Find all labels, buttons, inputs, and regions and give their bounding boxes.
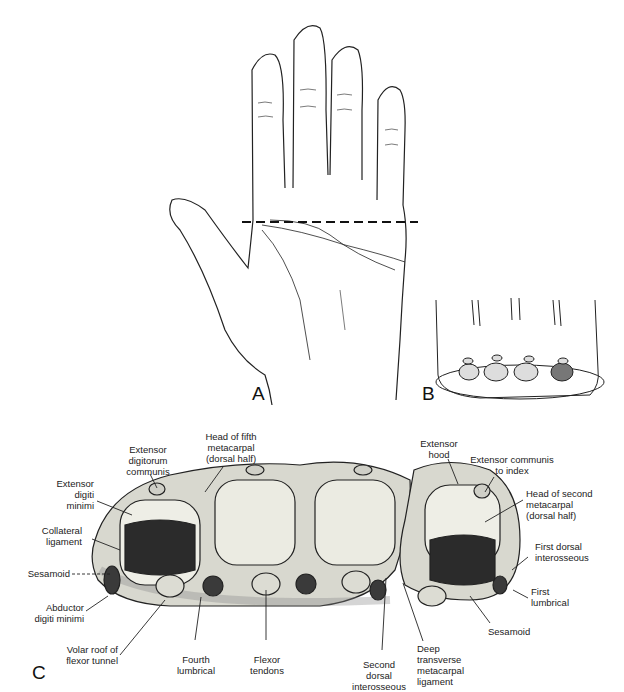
- label-extensor-digitorum-communis: Extensor digitorum communis: [118, 444, 178, 477]
- label-first-lumbrical: First lumbrical: [531, 586, 591, 608]
- label-sesamoid-radial: Sesamoid: [488, 626, 548, 637]
- label-extensor-hood: Extensor hood: [414, 438, 464, 460]
- panel-a-hand-drawing: [170, 26, 406, 405]
- panel-label-a: A: [252, 383, 265, 405]
- panel-label-c: C: [32, 662, 46, 684]
- label-collateral-ligament: Collateral ligament: [18, 525, 82, 547]
- label-head-second-metacarpal: Head of second metacarpal (dorsal half): [526, 488, 618, 521]
- label-abductor-digiti-minimi: Abductor digiti minimi: [18, 602, 84, 624]
- label-head-fifth-metacarpal: Head of fifth metacarpal (dorsal half): [194, 431, 268, 464]
- panel-label-b: B: [422, 383, 435, 405]
- label-deep-transverse-metacarpal-ligament: Deep transverse metacarpal ligament: [417, 643, 487, 687]
- label-sesamoid-ulnar: Sesamoid: [20, 568, 70, 579]
- label-volar-roof-flexor-tunnel: Volar roof of flexor tunnel: [52, 644, 118, 666]
- label-fourth-lumbrical: Fourth lumbrical: [168, 654, 224, 676]
- label-extensor-digiti-minimi: Extensor digiti minimi: [40, 478, 94, 511]
- label-first-dorsal-interosseous: First dorsal interosseous: [535, 541, 605, 563]
- label-flexor-tendons: Flexor tendons: [240, 654, 294, 676]
- label-extensor-communis-index: Extensor communis to index: [462, 454, 562, 476]
- label-second-dorsal-interosseous: Second dorsal interosseous: [344, 659, 414, 692]
- panel-c-cross-section: [92, 462, 520, 606]
- panel-b-section-drawing: [436, 298, 604, 399]
